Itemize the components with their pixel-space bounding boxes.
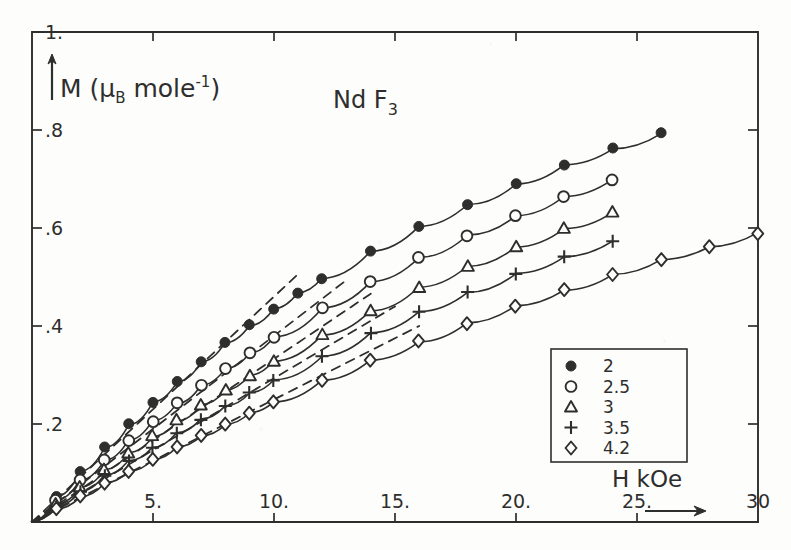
y-axis-label-text: M (μB mole-1) <box>60 73 220 107</box>
legend-label-0: 2 <box>603 356 614 376</box>
x-tick-label-0: 5. <box>144 490 162 512</box>
data-point-open-circle <box>123 435 134 446</box>
data-point-open-circle <box>566 381 577 392</box>
y-tick-label-0: .2 <box>45 413 63 435</box>
magnetization-chart: 5.10.15.20.25.30.2.4.6.81.M (μB mole-1)N… <box>0 0 791 550</box>
y-axis-label: M (μB mole-1) <box>48 54 220 107</box>
data-point-filled-circle <box>366 246 376 256</box>
series-3 <box>32 206 619 522</box>
legend-label-2: 3 <box>603 397 614 417</box>
legend-label-4: 4.2 <box>603 438 630 458</box>
data-point-open-diamond <box>607 268 618 281</box>
data-point-open-triangle <box>510 241 522 252</box>
data-point-open-circle <box>245 347 256 358</box>
data-point-open-circle <box>172 397 183 408</box>
chart-title-text: Nd F3 <box>333 86 398 119</box>
data-point-filled-circle <box>100 442 110 452</box>
series-tangent-2 <box>32 274 298 522</box>
x-tick-label-5: 30 <box>746 490 770 512</box>
data-point-open-triangle <box>565 401 577 412</box>
data-point-open-diamond <box>365 354 376 367</box>
data-point-filled-circle <box>463 200 473 210</box>
data-point-filled-circle <box>559 160 569 170</box>
x-tick-label-4: 25. <box>622 490 652 512</box>
data-point-filled-circle <box>220 337 230 347</box>
data-point-filled-circle <box>244 320 254 330</box>
x-tick-label-2: 15. <box>380 490 410 512</box>
x-axis-label-text: H kOe <box>612 466 682 492</box>
data-point-filled-circle <box>293 288 303 298</box>
data-point-open-diamond <box>510 300 521 313</box>
data-point-open-circle <box>607 175 618 186</box>
data-point-filled-circle <box>511 179 521 189</box>
legend-label-3: 3.5 <box>603 418 630 438</box>
data-point-plus <box>565 421 578 434</box>
legend-item-4.2: 4.2 <box>566 438 631 458</box>
data-point-open-diamond <box>317 374 328 387</box>
data-point-open-circle <box>365 276 376 287</box>
data-point-open-diamond <box>461 317 472 330</box>
y-tick-label-1: .4 <box>45 315 63 337</box>
data-point-open-diamond <box>244 407 255 420</box>
y-tick-label-2: .6 <box>45 217 63 239</box>
legend-label-1: 2.5 <box>603 377 630 397</box>
data-point-filled-circle <box>317 274 327 284</box>
data-point-filled-circle <box>196 357 206 367</box>
data-point-plus <box>509 267 522 280</box>
data-point-open-circle <box>196 380 207 391</box>
chart-title: Nd F3 <box>333 86 398 119</box>
legend-item-2: 2 <box>566 356 614 376</box>
data-point-open-circle <box>317 302 328 313</box>
legend: 22.533.54.2 <box>551 349 687 462</box>
y-tick-label-4: 1. <box>45 21 63 43</box>
data-point-open-triangle <box>170 414 182 425</box>
data-point-open-diamond <box>566 442 577 455</box>
data-point-filled-circle <box>148 397 158 407</box>
data-point-plus <box>606 235 619 248</box>
data-point-filled-circle <box>269 304 279 314</box>
data-point-open-diamond <box>656 253 667 266</box>
data-point-open-circle <box>220 363 231 374</box>
legend-item-2.5: 2.5 <box>566 377 630 397</box>
data-point-open-diamond <box>704 240 715 253</box>
data-point-filled-circle <box>172 376 182 386</box>
x-tick-label-3: 20. <box>501 490 531 512</box>
series-tangent-3.5 <box>32 306 395 522</box>
data-point-open-triangle <box>606 206 618 217</box>
data-point-open-circle <box>558 191 569 202</box>
x-tick-label-1: 10. <box>259 490 289 512</box>
data-point-plus <box>558 250 571 263</box>
data-point-open-triangle <box>146 430 158 441</box>
data-point-open-diamond <box>559 283 570 296</box>
data-point-open-circle <box>269 332 280 343</box>
figure-page: 5.10.15.20.25.30.2.4.6.81.M (μB mole-1)N… <box>0 0 791 550</box>
data-point-open-circle <box>413 252 424 263</box>
data-point-filled-circle <box>124 419 134 429</box>
legend-item-3: 3 <box>565 397 614 417</box>
data-point-filled-circle <box>414 221 424 231</box>
data-point-open-circle <box>510 210 521 221</box>
data-point-open-diamond <box>752 227 763 240</box>
data-point-filled-circle <box>566 361 576 371</box>
data-point-open-circle <box>148 416 159 427</box>
data-point-filled-circle <box>608 143 618 153</box>
legend-item-3.5: 3.5 <box>565 418 631 438</box>
y-tick-label-3: .8 <box>45 119 63 141</box>
series-line-3 <box>32 212 613 522</box>
data-point-filled-circle <box>656 128 666 138</box>
data-point-open-circle <box>462 230 473 241</box>
